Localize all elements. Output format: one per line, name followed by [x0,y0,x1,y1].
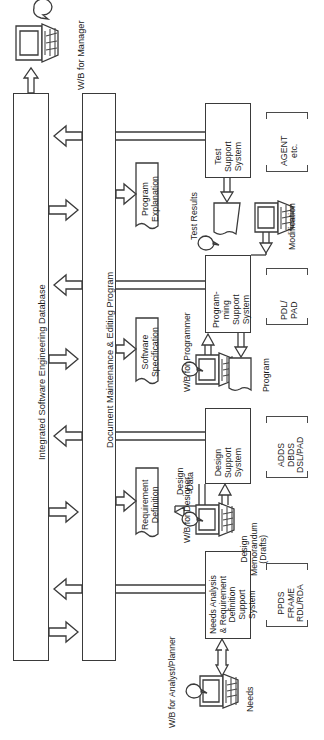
manager-terminal-icon [16,0,58,62]
arrow-db-to-doc-3 [49,502,78,522]
rail-modification-down [263,232,269,243]
rail-program-down [238,333,244,347]
rail-test-down [224,178,230,192]
tools-test-label: AGENT etc. [280,136,300,166]
art-modification-label: Modification [288,203,298,250]
rail-designer-up [222,495,228,505]
arrowhead-designer-up [219,484,231,495]
doc-shape-program [229,358,251,390]
art-needs-label: Needs [246,687,256,712]
spine-document-program-label: Document Maintenance & Editing Program [105,272,115,448]
hand-icon-test [198,236,219,250]
arrowhead-program [235,347,247,357]
sys-needs-label: Needs Analysis & Requirement Definition … [209,575,257,634]
arrow-to-program-explanation [116,184,136,204]
arrow-db-to-manager [24,68,38,93]
arrow-doc-to-db-1 [54,126,82,146]
art-design-data-label: Design Data [176,468,196,495]
doc-software-specification-label: Software Specification [141,327,161,377]
arrow-to-software-specification [116,339,136,359]
sys-design-label: Design Support System [214,447,244,478]
art-test-results-label: Test Results [190,192,200,240]
arrow-db-to-doc-4 [49,622,78,642]
spine-database-label: Integrated Software Engineering Database [37,284,47,460]
tools-programming-label: PDL/ PAD [280,300,300,320]
diagram-canvas: Integrated Software Engineering Database… [0,0,324,740]
rail-programmer-up [205,345,211,355]
rail-needs-to-spines [116,585,205,593]
art-design-memo-label: Design Memorandum (Drafts) [240,522,269,576]
arrowhead-test-results [221,192,233,202]
wb-manager-label: W/B for Manager [76,21,86,90]
doc-shape-test-results [214,203,240,234]
rail-test-to-spines [116,132,205,140]
arrow-db-to-doc-1 [49,200,78,220]
wb-analyst-label: W/B for Analyst/Planner [168,636,178,728]
arrow-db-to-doc-2 [49,349,78,369]
wb-programmer-label: W/B for Programmer [183,312,193,392]
rail-programming-to-spines [116,281,205,289]
arrow-to-requirement-definition [116,491,136,511]
analyst-terminal-icon [186,674,238,708]
arrowhead-programmer-up [202,334,214,345]
arrow-doc-to-db-4 [54,579,82,599]
rail-design-to-spines [116,432,205,440]
arrow-doc-to-db-2 [54,275,82,295]
diagram-vector-layer [0,0,324,740]
arrow-doc-to-db-3 [54,426,82,446]
arrowhead-modification [260,243,272,253]
arrow-needs-bidirectional [216,639,228,676]
sys-prog-label: Program- ming Support System [212,291,251,328]
tools-needs-label: PPDS FRAME RDL/RDA [277,584,306,622]
doc-requirement-definition-label: Requirement Definition [141,480,161,530]
doc-program-explanation-label: Program Explanation [141,176,161,222]
sys-test-label: Test Support System [214,141,244,172]
tools-design-label: ADDS DBDS DSL/PAD [277,437,306,473]
art-program-label: Program [262,358,272,392]
